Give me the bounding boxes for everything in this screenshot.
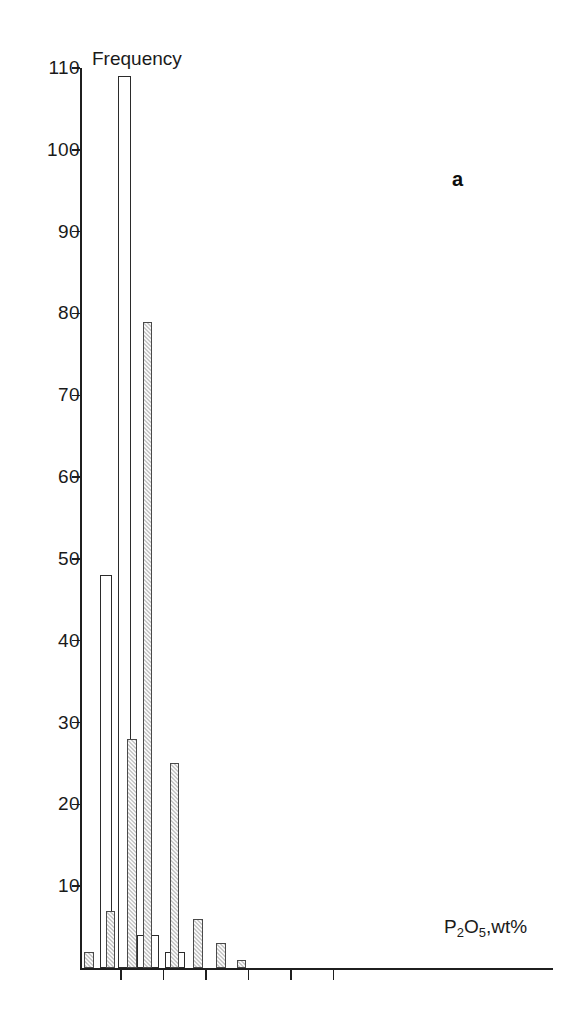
y-axis-tick-label: 40 xyxy=(34,631,80,650)
y-axis-tick-label-wrap: 100 xyxy=(0,140,80,159)
y-axis-tick-label: 110 xyxy=(34,58,80,77)
bar-hatched-6 xyxy=(216,943,225,968)
y-axis-tick-label-wrap: 80 xyxy=(0,303,80,322)
x-axis-tick xyxy=(248,969,249,980)
y-axis-tick-label: 70 xyxy=(34,385,80,404)
y-axis-tick-label-wrap: 90 xyxy=(0,222,80,241)
y-axis-tick-label: 90 xyxy=(34,222,80,241)
y-axis-tick-label: 20 xyxy=(34,794,80,813)
bar-hatched-2 xyxy=(127,739,136,968)
bar-hatched-4 xyxy=(170,763,179,968)
y-axis-tick-label: 50 xyxy=(34,549,80,568)
bar-open-0 xyxy=(100,575,112,968)
bar-hatched-5 xyxy=(193,919,202,968)
bar-hatched-1 xyxy=(106,911,115,968)
y-axis-tick-label: 60 xyxy=(34,467,80,486)
x-axis-tick xyxy=(120,969,121,980)
y-axis-tick-label-wrap: 70 xyxy=(0,385,80,404)
x-axis-tick xyxy=(290,969,291,980)
bar-hatched-3 xyxy=(143,322,152,968)
y-axis-tick-label: 10 xyxy=(34,876,80,895)
y-axis-tick-label: 30 xyxy=(34,713,80,732)
x-axis-tick xyxy=(163,969,164,980)
x-axis-tick xyxy=(333,969,334,980)
x-axis-line xyxy=(80,968,553,970)
x-axis-tick xyxy=(205,969,206,980)
bar-hatched-0 xyxy=(84,952,93,968)
figure-panel-a: Frequency a P2O5,wt% 1020304050607080901… xyxy=(0,0,573,1025)
bar-hatched-7 xyxy=(237,960,246,968)
y-axis-tick-label: 80 xyxy=(34,303,80,322)
y-axis-tick-label-wrap: 20 xyxy=(0,794,80,813)
y-axis-tick-label: 100 xyxy=(34,140,80,159)
y-axis-title: Frequency xyxy=(92,48,182,70)
y-axis-tick-label-wrap: 50 xyxy=(0,549,80,568)
y-axis-tick-label-wrap: 30 xyxy=(0,713,80,732)
y-axis-tick-label-wrap: 10 xyxy=(0,876,80,895)
y-axis-tick-label-wrap: 40 xyxy=(0,631,80,650)
plot-area xyxy=(80,68,553,968)
y-axis-tick-label-wrap: 110 xyxy=(0,58,80,77)
y-axis-tick-label-wrap: 60 xyxy=(0,467,80,486)
